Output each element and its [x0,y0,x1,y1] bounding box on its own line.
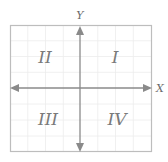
y-axis-label: Y [76,9,85,22]
quadrant-label-iv: IV [107,109,129,129]
x-axis-right-arrow-icon [143,84,152,92]
y-axis-up-arrow-icon [76,26,84,35]
x-axis-left-arrow-icon [10,84,19,92]
quadrant-label-i: I [111,47,119,67]
y-axis-down-arrow-icon [76,143,84,152]
y-axis [76,26,84,152]
x-axis [10,84,152,92]
quadrant-label-iii: III [37,109,58,129]
x-axis-label: X [155,82,165,95]
coordinate-plane: Y X II I III IV [0,0,168,162]
quadrant-label-ii: II [37,47,52,67]
